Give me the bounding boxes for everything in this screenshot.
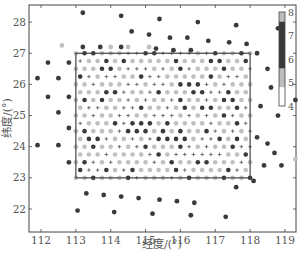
- data-point: [150, 211, 155, 216]
- data-point: [185, 35, 190, 40]
- colorbar-tick-label: 6: [288, 54, 294, 65]
- y-axis-label: 纬度/(°): [0, 98, 14, 138]
- y-tick-label: 27: [13, 47, 26, 59]
- data-point: [227, 40, 232, 45]
- data-point: [136, 196, 141, 201]
- data-point: [56, 143, 61, 148]
- data-point: [188, 48, 193, 53]
- data-point: [154, 46, 159, 51]
- y-tick-label: 25: [13, 109, 26, 121]
- x-tick-label: 114: [101, 234, 121, 246]
- data-point: [234, 23, 239, 28]
- colorbar-tick-label: 5: [288, 77, 294, 88]
- data-point: [66, 94, 71, 99]
- data-point: [195, 20, 200, 25]
- data-point: [147, 45, 152, 50]
- y-tick-label: 23: [13, 171, 26, 183]
- x-tick-label: 113: [66, 234, 86, 246]
- y-tick-label: 26: [13, 78, 27, 90]
- data-point: [129, 29, 134, 34]
- data-point: [80, 10, 85, 15]
- data-point: [206, 38, 211, 43]
- y-tick-label: 22: [13, 203, 26, 215]
- data-point: [293, 157, 298, 162]
- data-point: [157, 17, 162, 22]
- data-point: [126, 45, 131, 50]
- data-point: [108, 45, 113, 50]
- data-point: [244, 42, 249, 47]
- data-point: [171, 48, 176, 53]
- x-tick-label: 118: [240, 234, 260, 246]
- data-point: [251, 179, 256, 184]
- data-point: [56, 76, 61, 81]
- data-point: [188, 213, 193, 218]
- data-point: [66, 60, 71, 65]
- data-point: [35, 143, 40, 148]
- data-point: [147, 32, 152, 37]
- scatter-chart: 112113114115116117118119 22232425262728 …: [0, 0, 303, 253]
- data-point: [119, 45, 124, 50]
- data-point: [192, 200, 197, 205]
- data-point: [262, 163, 267, 168]
- data-point: [119, 13, 124, 18]
- colorbar-tick-label: 4: [288, 101, 294, 112]
- data-point: [56, 110, 61, 115]
- x-tick-label: 119: [275, 234, 295, 246]
- data-point: [112, 210, 117, 215]
- data-point: [46, 94, 51, 99]
- data-point: [265, 141, 270, 146]
- y-tick-label: 28: [13, 16, 26, 28]
- data-point: [175, 199, 180, 204]
- data-point: [258, 104, 263, 109]
- data-point: [119, 194, 124, 199]
- data-point: [60, 43, 65, 48]
- data-point: [157, 197, 162, 202]
- plot-frame: [29, 5, 296, 232]
- data-point: [46, 60, 51, 65]
- y-tick-label: 24: [13, 140, 27, 152]
- inner-grid-points: [74, 51, 253, 180]
- data-point: [75, 208, 80, 213]
- data-point: [234, 185, 239, 190]
- data-point: [279, 163, 284, 168]
- data-point: [101, 193, 106, 198]
- colorbar-tick-label: 8: [288, 7, 294, 18]
- data-point: [255, 135, 260, 140]
- data-point: [84, 191, 89, 196]
- data-point: [276, 113, 281, 118]
- data-point: [269, 85, 274, 90]
- y-tick-labels: 22232425262728: [13, 16, 27, 215]
- x-axis-label: 经度/(°): [142, 237, 182, 251]
- data-point: [80, 45, 85, 50]
- data-point: [255, 51, 260, 56]
- colorbar-tick-label: 7: [288, 30, 294, 41]
- x-tick-label: 117: [205, 234, 225, 246]
- data-point: [66, 160, 71, 165]
- data-point: [265, 66, 270, 71]
- x-tick-label: 112: [31, 234, 51, 246]
- data-point: [66, 126, 71, 131]
- data-point: [35, 76, 40, 81]
- data-point: [168, 35, 173, 40]
- data-point: [272, 151, 277, 156]
- data-point: [223, 214, 228, 219]
- data-point: [98, 45, 103, 50]
